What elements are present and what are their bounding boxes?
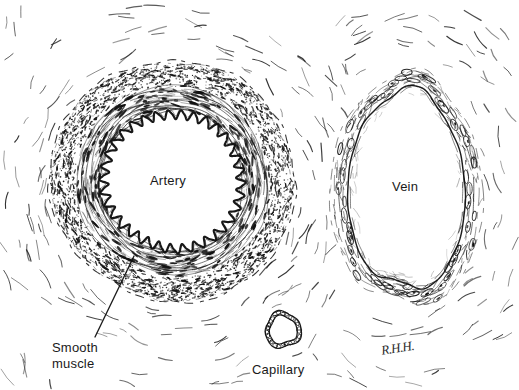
vein-label: Vein	[392, 179, 418, 195]
capillary-label: Capillary	[252, 362, 304, 378]
illustration-canvas	[0, 0, 519, 390]
blood-vessel-figure: Artery Vein Capillary Smoothmuscle R.H.H…	[0, 0, 519, 390]
smooth-muscle-label-line2: muscle	[52, 356, 98, 372]
artery-label: Artery	[150, 173, 186, 189]
smooth-muscle-label: Smoothmuscle	[52, 340, 98, 373]
smooth-muscle-label-line1: Smooth	[52, 340, 98, 355]
